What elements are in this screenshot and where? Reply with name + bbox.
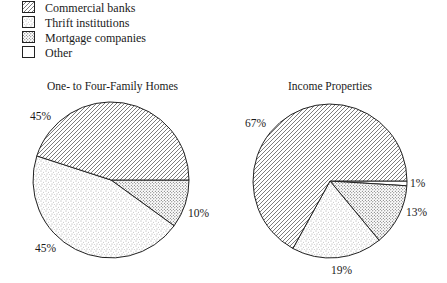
pie-title-left: One- to Four-Family Homes xyxy=(40,80,185,92)
pct-label-other-right: 1% xyxy=(410,177,425,189)
pct-label-mortgage-left: 10% xyxy=(188,207,209,219)
legend-item-mortgage-companies: Mortgage companies xyxy=(22,30,146,45)
pie-income-properties xyxy=(253,104,407,258)
pct-label-thrift-left: 45% xyxy=(35,242,56,254)
pie-one-to-four-family-homes xyxy=(33,102,189,258)
legend-item-other: Other xyxy=(22,45,146,60)
legend-label: Commercial banks xyxy=(45,1,135,15)
legend: Commercial banks Thrift institutions Mor… xyxy=(22,0,146,60)
pct-label-thrift-right: 19% xyxy=(331,264,352,276)
pie-title-right: Income Properties xyxy=(270,80,390,92)
legend-item-commercial-banks: Commercial banks xyxy=(22,0,146,15)
blank-swatch-icon xyxy=(22,47,35,59)
legend-label: Mortgage companies xyxy=(45,31,146,45)
legend-item-thrift-institutions: Thrift institutions xyxy=(22,15,146,30)
pct-label-commercial-right: 67% xyxy=(245,117,266,129)
legend-label: Thrift institutions xyxy=(45,16,129,30)
dense-dots-swatch-icon xyxy=(22,32,35,44)
sparse-dots-swatch-icon xyxy=(22,17,35,29)
hatch-swatch-icon xyxy=(22,2,35,14)
pct-label-commercial-left: 45% xyxy=(30,110,51,122)
legend-label: Other xyxy=(45,46,72,60)
pct-label-mortgage-right: 13% xyxy=(406,206,427,218)
